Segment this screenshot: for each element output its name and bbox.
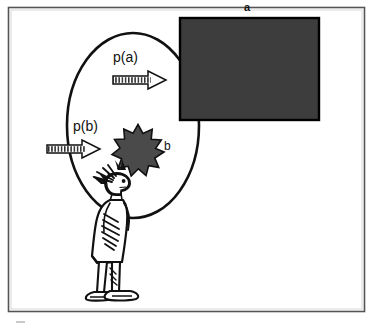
diagram-canvas: a b p(a) p(b) xyxy=(0,0,374,329)
outcome-a-rectangle xyxy=(180,18,319,120)
scan-artifact-mark xyxy=(16,321,25,323)
label-outcome-a: a xyxy=(244,2,250,13)
probability-b-arrow xyxy=(47,140,100,158)
label-probability-a: p(a) xyxy=(113,50,138,64)
label-probability-b: p(b) xyxy=(73,119,98,133)
probability-a-arrow xyxy=(113,71,166,89)
observer-person-sketch xyxy=(86,159,138,301)
label-outcome-b: b xyxy=(164,140,171,152)
diagram-vector-layer xyxy=(0,0,374,329)
